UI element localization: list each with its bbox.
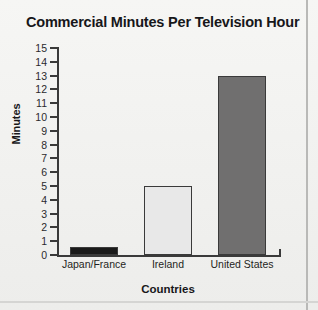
chart-figure: Commercial Minutes Per Television Hour M… xyxy=(0,0,318,310)
y-axis-tick-label: 9 xyxy=(23,126,47,137)
y-axis-tick xyxy=(50,213,57,215)
plot-area: 0123456789101112131415 Japan/FranceIrela… xyxy=(57,48,279,255)
y-axis-tick xyxy=(50,157,57,159)
y-axis-tick xyxy=(50,88,57,90)
x-axis-category-label: United States xyxy=(205,258,279,270)
y-axis-tick xyxy=(50,199,57,201)
y-axis-tick-label: 6 xyxy=(23,167,47,178)
y-axis-tick-label: 5 xyxy=(23,181,47,192)
y-axis-tick xyxy=(50,226,57,228)
y-axis-tick-label: 1 xyxy=(23,236,47,247)
x-axis-right-cap xyxy=(279,249,281,257)
y-axis-tick xyxy=(50,185,57,187)
page-edge-line-right xyxy=(306,0,308,310)
page-edge-line-bottom xyxy=(0,301,318,303)
y-axis-tick xyxy=(50,61,57,63)
y-axis-tick-label: 0 xyxy=(23,250,47,261)
x-axis-category-label: Ireland xyxy=(131,258,205,270)
y-axis-tick xyxy=(50,171,57,173)
y-axis-tick-label: 15 xyxy=(23,43,47,54)
y-axis-tick xyxy=(50,254,57,256)
y-axis-tick xyxy=(50,75,57,77)
bar xyxy=(70,247,118,255)
y-axis-tick-label: 3 xyxy=(23,209,47,220)
x-axis-category-label: Japan/France xyxy=(57,258,131,270)
y-axis-tick-label: 7 xyxy=(23,153,47,164)
y-axis-tick xyxy=(50,130,57,132)
x-axis-title: Countries xyxy=(57,283,279,295)
y-axis-tick-label: 10 xyxy=(23,112,47,123)
y-axis-line xyxy=(57,47,59,256)
y-axis-tick xyxy=(50,116,57,118)
bar xyxy=(218,76,266,255)
y-axis-tick xyxy=(50,47,57,49)
y-axis-tick xyxy=(50,240,57,242)
y-axis-tick-label: 12 xyxy=(23,84,47,95)
chart-title: Commercial Minutes Per Television Hour xyxy=(26,14,298,30)
y-axis-tick-label: 11 xyxy=(23,98,47,109)
x-axis-line xyxy=(57,255,281,257)
y-axis-tick-label: 8 xyxy=(23,140,47,151)
y-axis-title: Minutes xyxy=(10,89,22,159)
y-axis-tick-label: 13 xyxy=(23,71,47,82)
y-axis-tick-label: 4 xyxy=(23,195,47,206)
y-axis-tick-label: 2 xyxy=(23,222,47,233)
y-axis-tick xyxy=(50,102,57,104)
y-axis-tick-label: 14 xyxy=(23,57,47,68)
y-axis-tick xyxy=(50,144,57,146)
bar xyxy=(144,186,192,255)
